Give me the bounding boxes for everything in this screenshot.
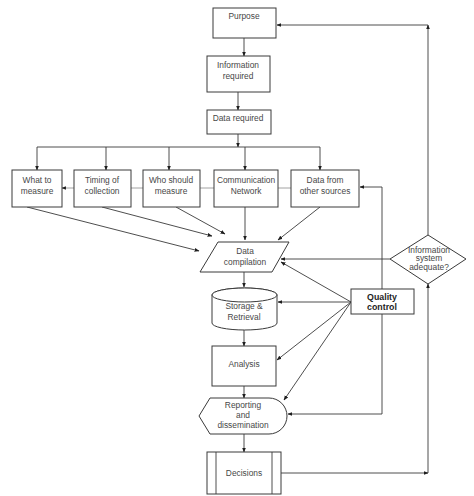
svg-text:What tomeasure: What tomeasure xyxy=(21,175,54,196)
node-label: Data xyxy=(236,246,254,256)
svg-text:Data required: Data required xyxy=(213,113,264,123)
node-label: Who should xyxy=(149,175,194,185)
node-timing-of-collection: Timing ofcollection xyxy=(74,170,131,207)
edge-timing-to-compilation xyxy=(102,207,212,236)
node-reporting-dissemination: Reportinganddissemination xyxy=(199,398,287,434)
node-what-to-measure: What tomeasure xyxy=(12,170,62,207)
node-quality-control: Qualitycontrol xyxy=(351,289,414,314)
edge-who-to-compilation xyxy=(176,207,225,234)
svg-text:Timing ofcollection: Timing ofcollection xyxy=(85,175,120,196)
node-label: compilation xyxy=(224,257,267,267)
svg-text:Analysis: Analysis xyxy=(228,359,259,369)
node-who-should-measure: Who shouldmeasure xyxy=(143,170,200,207)
svg-text:Purpose: Purpose xyxy=(228,11,260,21)
node-purpose: Purpose xyxy=(213,8,276,38)
node-label: Decisions xyxy=(226,468,262,478)
node-label: Information xyxy=(217,60,259,70)
node-label: Storage & xyxy=(225,301,263,311)
node-communication-network: CommunicationNetwork xyxy=(214,170,278,207)
node-label: Quality xyxy=(367,292,397,302)
edge-qc-to-compilation xyxy=(281,262,351,302)
node-label: What to xyxy=(23,175,52,185)
node-label: adequate? xyxy=(409,262,449,272)
node-label: Purpose xyxy=(228,11,260,21)
edge-data-other-to-compilation xyxy=(278,207,320,240)
edge-what-to-compilation xyxy=(27,207,199,251)
node-information-system-adequate: Informationsystemadequate? xyxy=(390,235,466,284)
svg-text:Data fromother sources: Data fromother sources xyxy=(300,175,351,196)
node-label: measure xyxy=(21,186,54,196)
node-label: control xyxy=(367,302,397,312)
svg-text:Who shouldmeasure: Who shouldmeasure xyxy=(149,175,194,196)
node-label: and xyxy=(236,410,250,420)
edge-qc-to-reporting xyxy=(284,302,351,400)
edge-qc-to-data-other xyxy=(360,187,382,289)
svg-text:Decisions: Decisions xyxy=(226,468,262,478)
node-analysis: Analysis xyxy=(212,346,276,386)
node-data-required: Data required xyxy=(207,110,271,134)
node-label: Data required xyxy=(213,113,264,123)
node-label: Data from xyxy=(307,175,344,185)
node-data-from-other-sources: Data fromother sources xyxy=(291,170,359,207)
svg-text:Qualitycontrol: Qualitycontrol xyxy=(367,292,397,312)
flowchart-diagram: Purpose Informationrequired Data require… xyxy=(0,0,474,496)
node-label: measure xyxy=(155,186,188,196)
node-data-compilation: Datacompilation xyxy=(200,242,289,272)
node-information-required: Informationrequired xyxy=(207,56,270,92)
node-label: Reporting xyxy=(225,400,262,410)
svg-text:Informationrequired: Informationrequired xyxy=(217,60,259,81)
node-storage-retrieval: Storage &Retrieval xyxy=(212,288,277,330)
node-label: Analysis xyxy=(228,359,259,369)
edge-qc-to-reporting-loop xyxy=(288,314,382,414)
node-label: Retrieval xyxy=(227,312,260,322)
node-label: dissemination xyxy=(217,420,269,430)
node-label: collection xyxy=(85,186,120,196)
node-label: Network xyxy=(231,186,263,196)
node-label: Communication xyxy=(217,175,276,185)
node-label: other sources xyxy=(300,186,351,196)
edge-qc-to-analysis xyxy=(277,302,351,360)
node-label: required xyxy=(223,71,254,81)
node-decisions: Decisions xyxy=(207,452,281,494)
svg-text:Storage &Retrieval: Storage &Retrieval xyxy=(225,301,263,322)
node-label: Timing of xyxy=(85,175,120,185)
